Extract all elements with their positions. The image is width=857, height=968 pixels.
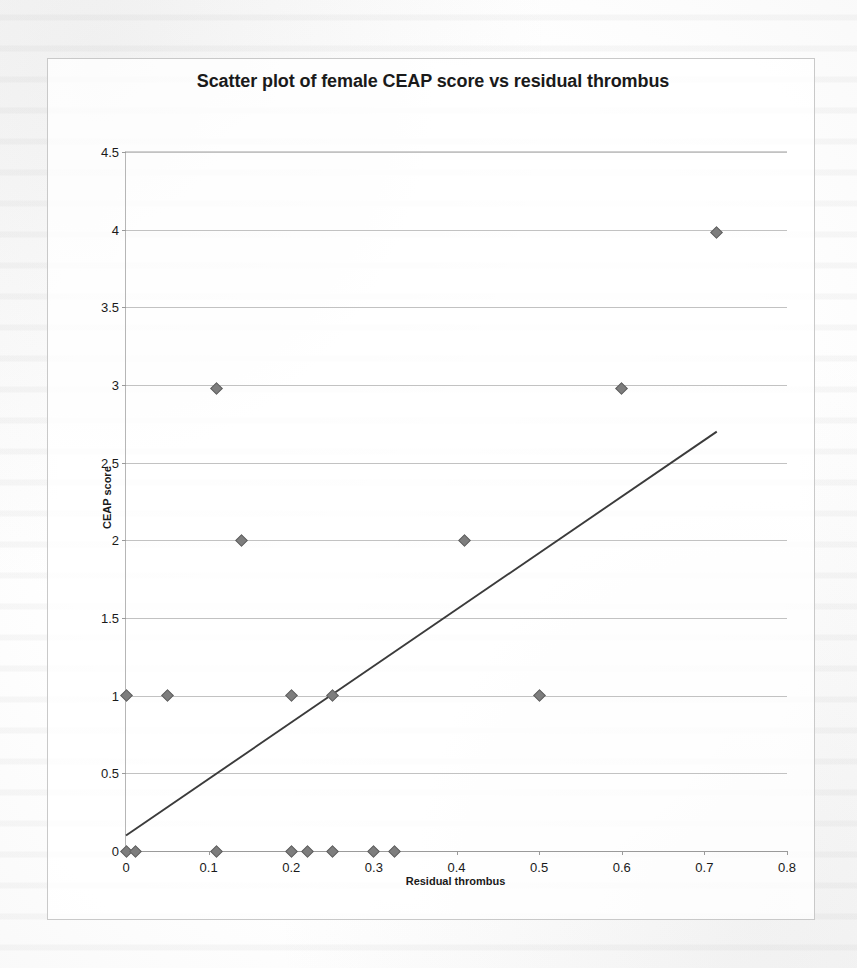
y-tick-label: 2.5 — [101, 455, 119, 470]
data-point-marker — [368, 845, 381, 858]
x-tick-label: 0.2 — [282, 860, 300, 875]
data-point-marker — [326, 845, 339, 858]
gridline-y — [126, 463, 787, 464]
y-tick-mark — [122, 540, 126, 541]
x-tick-mark — [622, 851, 623, 855]
y-tick-mark — [122, 773, 126, 774]
y-tick-label: 0.5 — [101, 766, 119, 781]
x-tick-label: 0 — [122, 860, 129, 875]
gridline-y — [126, 696, 787, 697]
y-tick-label: 4.5 — [101, 145, 119, 160]
plot-area: 00.511.522.533.544.5 00.10.20.30.40.50.6… — [125, 151, 787, 851]
chart-title: Scatter plot of female CEAP score vs res… — [158, 71, 708, 93]
y-tick-mark — [122, 307, 126, 308]
gridline-y — [126, 540, 787, 541]
y-tick-label: 4 — [112, 222, 119, 237]
y-axis-title: CEAP score — [101, 466, 113, 529]
y-tick-mark — [122, 618, 126, 619]
x-tick-mark — [704, 851, 705, 855]
chart-frame: Scatter plot of female CEAP score vs res… — [47, 58, 815, 920]
data-point-marker — [235, 534, 248, 547]
gridline-y — [126, 307, 787, 308]
data-point-marker — [285, 845, 298, 858]
x-tick-mark — [457, 851, 458, 855]
data-point-marker — [130, 845, 143, 858]
y-tick-mark — [122, 230, 126, 231]
y-tick-label: 1.5 — [101, 611, 119, 626]
x-tick-label: 0.6 — [613, 860, 631, 875]
data-point-marker — [533, 689, 546, 702]
x-tick-mark — [787, 851, 788, 855]
x-axis-title: Residual thrombus — [125, 875, 786, 887]
data-point-marker — [458, 534, 471, 547]
gridline-y — [126, 618, 787, 619]
y-tick-label: 0 — [112, 844, 119, 859]
trendline — [126, 152, 787, 851]
data-point-marker — [326, 689, 339, 702]
data-point-marker — [710, 226, 723, 239]
gridline-y — [126, 773, 787, 774]
x-tick-label: 0.4 — [447, 860, 465, 875]
data-point-marker — [388, 845, 401, 858]
x-tick-mark — [539, 851, 540, 855]
x-tick-label: 0.5 — [530, 860, 548, 875]
x-tick-label: 0.7 — [695, 860, 713, 875]
y-tick-label: 2 — [112, 533, 119, 548]
data-point-marker — [211, 382, 224, 395]
data-point-marker — [120, 689, 133, 702]
data-point-marker — [301, 845, 314, 858]
y-tick-mark — [122, 463, 126, 464]
data-point-marker — [161, 689, 174, 702]
y-tick-label: 3 — [112, 378, 119, 393]
data-point-marker — [211, 845, 224, 858]
x-tick-label: 0.1 — [200, 860, 218, 875]
y-tick-label: 1 — [112, 688, 119, 703]
y-tick-mark — [122, 385, 126, 386]
y-tick-label: 3.5 — [101, 300, 119, 315]
gridline-y — [126, 385, 787, 386]
x-tick-label: 0.3 — [365, 860, 383, 875]
data-point-marker — [285, 689, 298, 702]
gridline-y — [126, 230, 787, 231]
y-tick-mark — [122, 152, 126, 153]
data-point-marker — [615, 382, 628, 395]
x-tick-label: 0.8 — [778, 860, 796, 875]
gridline-y — [126, 152, 787, 153]
